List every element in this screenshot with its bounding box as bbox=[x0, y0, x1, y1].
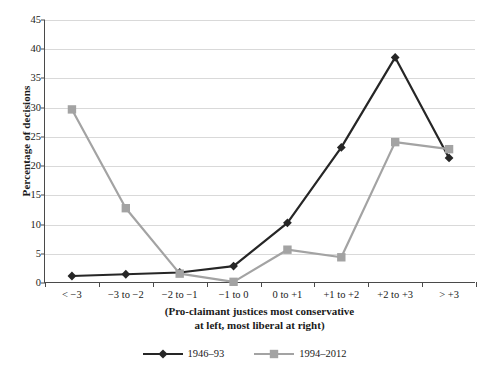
y-axis-tick-label: 45 bbox=[15, 15, 41, 26]
data-point-marker bbox=[283, 245, 291, 253]
legend-item-1[interactable]: 1946–93 bbox=[143, 348, 225, 360]
data-point-marker bbox=[122, 204, 130, 212]
x-axis-tick-mark bbox=[476, 282, 477, 287]
legend-square-marker-icon bbox=[254, 348, 294, 360]
data-point-marker bbox=[337, 253, 345, 261]
legend-item-2[interactable]: 1994–2012 bbox=[254, 348, 346, 360]
data-point-marker bbox=[445, 154, 454, 163]
chart-legend: 1946–931994–2012 bbox=[0, 348, 489, 360]
series-line bbox=[72, 57, 449, 276]
data-point-marker bbox=[175, 269, 183, 277]
series-1 bbox=[68, 53, 454, 280]
data-point-marker bbox=[445, 145, 453, 153]
x-axis-caption-line-1: (Pro-claimant justices most conservative bbox=[44, 305, 475, 319]
x-axis-tick-label: 0 to +1 bbox=[273, 290, 303, 301]
y-axis-tick-label: 35 bbox=[15, 73, 41, 84]
x-axis-tick-label: > +3 bbox=[439, 290, 459, 301]
y-axis-tick-label: 20 bbox=[15, 161, 41, 172]
y-axis-tick-label: 5 bbox=[15, 249, 41, 260]
x-axis-tick-label: −2 to −1 bbox=[162, 290, 198, 301]
x-axis-caption: (Pro-claimant justices most conservative… bbox=[44, 305, 475, 333]
y-axis-tick-label: 10 bbox=[15, 219, 41, 230]
y-axis-tick-label: 30 bbox=[15, 102, 41, 113]
y-axis-tick-label: 40 bbox=[15, 44, 41, 55]
line-chart-figure: Percentage of decisions 0510152025303540… bbox=[0, 0, 489, 376]
series-line bbox=[72, 109, 449, 281]
x-axis-tick-label: +2 to +3 bbox=[377, 290, 413, 301]
data-point-marker bbox=[121, 270, 130, 279]
plot-area: 051015202530354045 < −3−3 to −2−2 to −1−… bbox=[44, 20, 475, 283]
data-point-marker bbox=[229, 278, 237, 286]
legend-label: 1946–93 bbox=[188, 349, 225, 360]
data-point-marker bbox=[391, 138, 399, 146]
x-axis-tick-label: +1 to +2 bbox=[323, 290, 359, 301]
data-series-layer bbox=[45, 20, 476, 283]
y-axis-tick-label: 0 bbox=[15, 278, 41, 289]
x-axis-tick-label: < −3 bbox=[62, 290, 82, 301]
data-point-marker bbox=[68, 272, 77, 281]
legend-label: 1994–2012 bbox=[299, 349, 346, 360]
series-2 bbox=[68, 105, 454, 286]
y-axis-tick-label: 25 bbox=[15, 132, 41, 143]
x-axis-caption-line-2: at left, most liberal at right) bbox=[44, 319, 475, 333]
x-axis-tick-label: −3 to −2 bbox=[108, 290, 144, 301]
data-point-marker bbox=[68, 105, 76, 113]
legend-diamond-marker-icon bbox=[143, 348, 183, 360]
y-axis-tick-label: 15 bbox=[15, 190, 41, 201]
x-axis-tick-label: −1 to 0 bbox=[219, 290, 249, 301]
